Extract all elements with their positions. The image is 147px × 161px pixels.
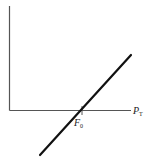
intercept-label: F0 xyxy=(74,118,83,131)
x-axis-label: PT xyxy=(133,106,143,119)
intercept-label-sub: 0 xyxy=(80,123,83,129)
linear-function-line xyxy=(40,55,131,155)
diagram-canvas xyxy=(0,0,147,161)
x-axis-label-sub: T xyxy=(139,111,143,117)
